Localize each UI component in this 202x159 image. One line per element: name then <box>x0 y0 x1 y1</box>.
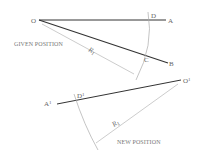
arc-given <box>136 12 150 80</box>
given-position-group: O A B C D R1 GIVEN POSITION <box>14 12 174 80</box>
label-c: C <box>144 56 149 64</box>
label-a1: A1 <box>44 100 52 109</box>
radius-dimension-new <box>96 84 178 143</box>
rotation-diagram: O A B C D R1 GIVEN POSITION O1 A1 D1 R1 … <box>0 0 202 159</box>
caption-given-position: GIVEN POSITION <box>14 41 63 47</box>
arc-new <box>74 94 98 150</box>
label-o1: O1 <box>183 77 191 86</box>
caption-new-position: NEW POSITION <box>117 139 161 145</box>
label-d: D <box>151 12 156 20</box>
label-o: O <box>31 17 36 25</box>
label-a: A <box>168 17 173 25</box>
line-o1a1 <box>57 80 181 104</box>
label-r1: R1 <box>86 45 97 56</box>
label-r1-new: R1 <box>110 118 121 129</box>
label-b: B <box>169 60 174 68</box>
new-position-group: O1 A1 D1 R1 NEW POSITION <box>44 77 191 151</box>
